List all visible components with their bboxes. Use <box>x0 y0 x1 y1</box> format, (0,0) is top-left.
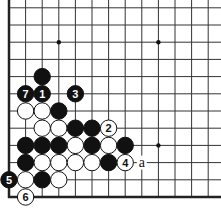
white-stone-disc <box>84 154 100 170</box>
black-stone-disc <box>84 120 100 136</box>
black-stone <box>100 154 116 170</box>
board-marks: a <box>137 155 147 170</box>
white-stone <box>51 154 67 170</box>
white-stone-disc <box>34 103 50 119</box>
white-stone-disc <box>17 103 33 119</box>
move-number: 6 <box>23 191 29 203</box>
black-stone-disc <box>17 154 33 170</box>
black-stone <box>34 68 50 84</box>
white-stone <box>51 172 67 188</box>
black-stone-disc <box>67 120 83 136</box>
black-stone-1: 1 <box>34 86 50 102</box>
white-stone <box>17 172 33 188</box>
white-stone <box>51 120 67 136</box>
black-stone-disc <box>51 103 67 119</box>
black-stone <box>51 103 67 119</box>
white-stone-disc <box>17 172 33 188</box>
black-stone-disc <box>34 172 50 188</box>
white-stone-disc <box>67 154 83 170</box>
white-stone-disc <box>51 154 67 170</box>
black-stone <box>84 120 100 136</box>
white-stone <box>17 103 33 119</box>
move-number: 7 <box>23 88 29 100</box>
go-board: a 7132456 <box>0 0 221 212</box>
black-stone-disc <box>34 68 50 84</box>
white-stone <box>34 103 50 119</box>
black-stone-5: 5 <box>1 172 17 188</box>
white-stone-6: 6 <box>17 189 33 205</box>
black-stone <box>34 137 50 153</box>
white-stone-disc <box>51 120 67 136</box>
move-number: 4 <box>122 157 129 169</box>
white-stone <box>34 154 50 170</box>
black-stone <box>117 137 133 153</box>
white-stone-disc <box>100 137 116 153</box>
white-stone-disc <box>51 172 67 188</box>
star-point <box>156 143 160 147</box>
point-label-a: a <box>139 155 146 170</box>
black-stone-3: 3 <box>67 86 83 102</box>
white-stone <box>100 137 116 153</box>
black-stone-7: 7 <box>17 86 33 102</box>
black-stone-disc <box>100 154 116 170</box>
move-number: 2 <box>106 122 112 134</box>
white-stone-disc <box>67 137 83 153</box>
white-stone <box>67 137 83 153</box>
black-stone-disc <box>51 137 67 153</box>
black-stone-disc <box>84 137 100 153</box>
black-stone-disc <box>117 137 133 153</box>
black-stone-disc <box>17 137 33 153</box>
black-stone-disc <box>34 137 50 153</box>
black-stone <box>84 137 100 153</box>
move-number: 5 <box>6 174 12 186</box>
white-stone-disc <box>34 154 50 170</box>
white-stone-disc <box>34 120 50 136</box>
white-stone <box>67 154 83 170</box>
move-number: 3 <box>72 88 78 100</box>
white-stone <box>84 154 100 170</box>
star-point <box>57 40 61 44</box>
black-stone <box>17 137 33 153</box>
star-point <box>156 40 160 44</box>
move-number: 1 <box>39 88 45 100</box>
black-stone <box>67 120 83 136</box>
black-stone <box>51 137 67 153</box>
white-stone-4: 4 <box>117 154 133 170</box>
black-stone <box>34 172 50 188</box>
white-stone <box>34 120 50 136</box>
black-stone <box>17 154 33 170</box>
white-stone-2: 2 <box>100 120 116 136</box>
